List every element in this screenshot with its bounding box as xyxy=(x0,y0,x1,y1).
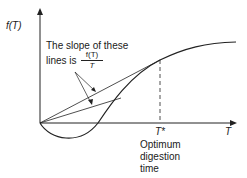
annotation-line-2: lines is xyxy=(46,55,77,66)
tstar-label: T* xyxy=(155,126,165,137)
optimum-line-2: digestion xyxy=(140,151,180,162)
pointer-line-1 xyxy=(75,72,95,91)
fraction-denominator: T xyxy=(81,62,103,70)
x-axis-label: T xyxy=(225,126,231,137)
pointer-arrowhead-2-icon xyxy=(88,99,93,105)
pointer-line-2 xyxy=(75,72,91,103)
diagram-canvas xyxy=(0,0,247,178)
optimum-line-1: Optimum xyxy=(140,139,181,150)
y-axis-arrow-icon xyxy=(37,8,43,15)
y-axis-label: f(T) xyxy=(6,20,22,31)
slope-fraction: f(T) T xyxy=(81,51,103,70)
optimum-line-3: time xyxy=(140,163,159,174)
fraction-numerator: f(T) xyxy=(81,51,103,59)
